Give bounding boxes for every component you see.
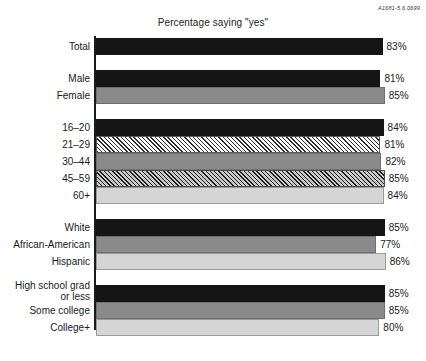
category-label: 30–44 xyxy=(62,156,90,167)
category-label: Male xyxy=(68,73,90,84)
bar-value-label: 77% xyxy=(380,239,400,250)
category-label: 60+ xyxy=(73,190,90,201)
category-label: High school grador less xyxy=(15,280,90,302)
category-label: White xyxy=(64,222,90,233)
bar xyxy=(96,119,384,136)
bar-value-label: 85% xyxy=(389,288,409,299)
bar-value-label: 82% xyxy=(385,156,405,167)
bar xyxy=(96,153,381,170)
category-label: Total xyxy=(69,41,90,52)
bar-value-label: 83% xyxy=(387,41,407,52)
bar xyxy=(96,253,386,270)
category-label: Some college xyxy=(29,305,90,316)
bar xyxy=(96,302,385,319)
bar-value-label: 81% xyxy=(384,73,404,84)
category-label: 21–29 xyxy=(62,139,90,150)
category-label: 45–59 xyxy=(62,173,90,184)
bar xyxy=(96,319,379,336)
bar xyxy=(96,187,384,204)
category-label: College+ xyxy=(50,322,90,333)
category-label: Hispanic xyxy=(52,256,90,267)
bar-value-label: 81% xyxy=(384,139,404,150)
bar xyxy=(96,219,385,236)
bar xyxy=(96,87,385,104)
bar xyxy=(96,236,376,253)
category-label: African-American xyxy=(13,239,90,250)
bar xyxy=(96,136,380,153)
bar xyxy=(96,38,383,55)
bar xyxy=(96,70,380,87)
bar-value-label: 85% xyxy=(389,173,409,184)
bar-value-label: 86% xyxy=(390,256,410,267)
bar xyxy=(96,285,385,302)
bar-value-label: 80% xyxy=(383,322,403,333)
bar-value-label: 85% xyxy=(389,305,409,316)
bar-value-label: 84% xyxy=(388,122,408,133)
category-label: 16–20 xyxy=(62,122,90,133)
bar-value-label: 85% xyxy=(389,90,409,101)
bar-chart: Total83%Male81%Female85%16–2084%21–2981%… xyxy=(0,0,426,361)
bar xyxy=(96,170,385,187)
category-label: Female xyxy=(57,90,90,101)
bar-value-label: 84% xyxy=(388,190,408,201)
bar-value-label: 85% xyxy=(389,222,409,233)
